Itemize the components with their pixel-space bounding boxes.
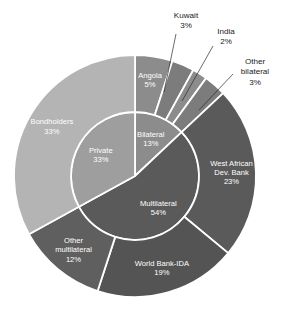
callout-label: Otherbilateral3% bbox=[241, 57, 270, 87]
callout-label: Kuwait3% bbox=[174, 11, 199, 30]
callout-label-line: India bbox=[217, 27, 235, 36]
donut-chart-svg: Bilateral13%Multilateral54%Private33%Ang… bbox=[0, 0, 284, 326]
callout-label-line: 2% bbox=[220, 38, 232, 47]
callout-label-line: 3% bbox=[180, 22, 192, 31]
callout-label-line: Other bbox=[245, 57, 266, 66]
callout-label-line: Kuwait bbox=[174, 11, 199, 20]
pie-chart: Bilateral13%Multilateral54%Private33%Ang… bbox=[0, 0, 284, 326]
callout-label-line: bilateral bbox=[241, 68, 270, 77]
callout-label: India2% bbox=[217, 27, 235, 46]
callout-label-line: 3% bbox=[249, 78, 261, 87]
